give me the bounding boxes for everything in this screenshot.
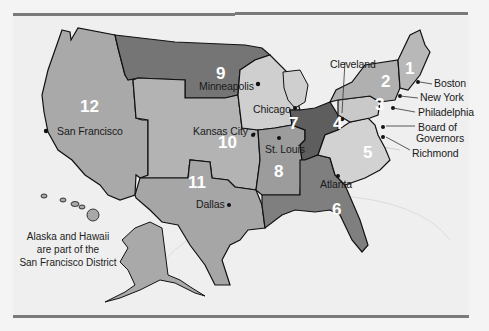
district-number-1: 1 — [405, 59, 414, 79]
city-label-cleveland: Cleveland — [330, 58, 376, 70]
district-8[interactable] — [256, 125, 305, 195]
city-label-philadelphia: Philadelphia — [418, 106, 474, 118]
district-number-3: 3 — [375, 95, 384, 115]
city-label-richmond: Richmond — [412, 147, 458, 159]
city-label-kansas-city: Kansas City — [193, 125, 248, 137]
note-line-3: San Francisco District — [18, 256, 118, 269]
city-label-chicago: Chicago — [253, 103, 291, 115]
district-number-11: 11 — [188, 173, 206, 193]
note-line-2: are part of the — [18, 243, 118, 256]
district-number-6: 6 — [332, 200, 341, 220]
district-number-12: 12 — [80, 97, 99, 117]
district-number-4: 4 — [333, 114, 342, 134]
district-number-2: 2 — [381, 72, 390, 92]
district-number-5: 5 — [363, 143, 372, 163]
city-label-governors: Governors — [416, 132, 464, 144]
city-label-new-york: New York — [420, 91, 464, 103]
district-3[interactable] — [338, 96, 380, 122]
city-label-atlanta: Atlanta — [320, 178, 352, 190]
district-number-7: 7 — [289, 114, 298, 134]
map-frame: 1 2 3 4 5 6 7 8 9 10 11 12 Boston New Yo… — [0, 0, 489, 331]
us-map — [0, 0, 489, 331]
city-label-san-francisco: San Francisco — [57, 125, 123, 137]
city-label-boston: Boston — [434, 77, 466, 89]
alaska-hawaii-note: Alaska and Hawaii are part of the San Fr… — [18, 230, 118, 269]
city-label-dallas: Dallas — [196, 198, 225, 210]
city-label-minneapolis: Minneapolis — [199, 80, 254, 92]
hawaii[interactable] — [41, 194, 99, 221]
district-number-8: 8 — [274, 162, 283, 182]
note-line-1: Alaska and Hawaii — [18, 230, 118, 243]
city-label-st-louis: St. Louis — [265, 143, 305, 155]
